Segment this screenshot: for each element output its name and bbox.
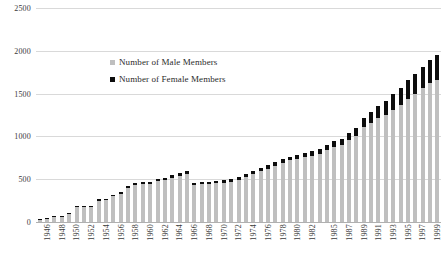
x-axis-tick-label: 1954 xyxy=(102,224,111,241)
y-axis-tick-label: 500 xyxy=(18,175,31,184)
x-axis-tick-label: 1958 xyxy=(131,224,140,241)
bar-segment-female xyxy=(325,145,329,150)
bar-segment-male xyxy=(89,207,93,222)
x-axis: 1946194819501952195419561958196019621964… xyxy=(36,224,441,256)
bar-segment-female xyxy=(237,177,241,180)
bar-segment-male xyxy=(259,171,263,222)
bar-segment-male xyxy=(369,123,373,222)
bar-segment-male xyxy=(318,154,322,222)
bar-segment-male xyxy=(332,147,336,222)
x-axis-tick-label: 1968 xyxy=(205,224,214,241)
bar-segment-female xyxy=(399,88,403,105)
bar-segment-male xyxy=(251,174,255,222)
bar-segment-female xyxy=(303,153,307,157)
bar-segment-male xyxy=(435,80,439,222)
bar-segment-female xyxy=(244,174,248,177)
bar-segment-male xyxy=(421,88,425,222)
bar-segment-female xyxy=(67,213,71,214)
bar-segment-female xyxy=(421,67,425,88)
bar-segment-female xyxy=(119,192,123,194)
bar-segment-female xyxy=(207,182,211,184)
bar-segment-male xyxy=(38,220,42,222)
x-axis-tick-label: 1964 xyxy=(175,224,184,241)
bar-segment-female xyxy=(391,94,395,110)
bar-segment-female xyxy=(38,219,42,220)
bar-segment-male xyxy=(163,180,167,222)
x-axis-tick-label: 1991 xyxy=(374,224,383,241)
bar-segment-female xyxy=(428,60,432,83)
bar-segment-male xyxy=(133,185,137,222)
y-axis: 05001000150020002500 xyxy=(0,0,34,256)
y-axis-tick-label: 1500 xyxy=(14,89,31,98)
x-axis-tick-label: 1999 xyxy=(433,224,442,241)
x-axis-tick-label: 1989 xyxy=(360,224,369,241)
y-axis-tick-label: 1000 xyxy=(14,132,31,141)
bar-segment-male xyxy=(214,183,218,222)
bar-segment-female xyxy=(347,133,351,140)
bar-segment-male xyxy=(170,178,174,223)
chart-legend: Number of Male MembersNumber of Female M… xyxy=(110,57,226,84)
bar-segment-male xyxy=(354,136,358,222)
legend-item: Number of Male Members xyxy=(110,57,226,67)
bar-segment-male xyxy=(97,201,101,222)
bar-segment-male xyxy=(185,174,189,222)
bar-segment-male xyxy=(303,157,307,222)
legend-label: Number of Male Members xyxy=(119,57,217,67)
bar-segment-male xyxy=(200,184,204,222)
x-axis-tick-label: 1972 xyxy=(234,224,243,241)
bar-segment-female xyxy=(229,179,233,181)
gridline xyxy=(36,51,441,52)
bar-segment-male xyxy=(347,140,351,222)
bar-segment-male xyxy=(310,156,314,222)
bar-segment-female xyxy=(281,159,285,163)
bar-segment-female xyxy=(259,168,263,171)
x-axis-tick-label: 1962 xyxy=(161,224,170,241)
bar-segment-male xyxy=(237,180,241,222)
bar-segment-female xyxy=(288,157,292,161)
bar-segment-female xyxy=(192,183,196,185)
x-axis-tick-label: 1948 xyxy=(58,224,67,241)
x-axis-tick-label: 1978 xyxy=(279,224,288,241)
bar-segment-male xyxy=(295,159,299,222)
bar-segment-female xyxy=(104,199,108,201)
bar-segment-male xyxy=(60,217,64,222)
axis-baseline xyxy=(36,222,441,223)
y-axis-tick-label: 0 xyxy=(27,218,31,227)
bar-segment-male xyxy=(391,110,395,222)
bar-segment-male xyxy=(428,83,432,222)
x-axis-tick-label: 1970 xyxy=(220,224,229,241)
x-axis-tick-label: 1952 xyxy=(87,224,96,241)
bar-segment-male xyxy=(266,169,270,223)
bar-segment-male xyxy=(104,200,108,222)
bar-segment-female xyxy=(406,80,410,98)
bar-segment-male xyxy=(178,176,182,222)
bar-segment-female xyxy=(376,106,380,118)
bar-segment-female xyxy=(362,118,366,127)
bar-segment-female xyxy=(126,186,130,188)
bar-segment-male xyxy=(406,99,410,222)
bar-segment-female xyxy=(354,128,358,136)
bar-segment-male xyxy=(362,127,366,222)
y-axis-tick-label: 2000 xyxy=(14,46,31,55)
bar-segment-female xyxy=(111,195,115,197)
bar-segment-female xyxy=(251,171,255,174)
bar-segment-female xyxy=(141,182,145,184)
bar-segment-male xyxy=(67,214,71,222)
x-axis-tick-label: 1980 xyxy=(293,224,302,241)
bar-segment-male xyxy=(156,181,160,222)
bar-segment-male xyxy=(325,150,329,222)
bar-segment-male xyxy=(222,183,226,222)
bar-segment-male xyxy=(207,184,211,222)
membership-stacked-bar-chart: 05001000150020002500 1946194819501952195… xyxy=(0,0,444,256)
bar-segment-male xyxy=(119,194,123,222)
bar-segment-female xyxy=(148,182,152,184)
x-axis-tick-label: 1966 xyxy=(190,224,199,241)
bar-segment-female xyxy=(89,206,93,207)
bar-segment-male xyxy=(273,166,277,222)
bar-segment-male xyxy=(376,118,380,222)
bar-segment-female xyxy=(200,182,204,184)
bar-segment-male xyxy=(52,217,56,222)
bar-segment-female xyxy=(82,206,86,207)
bar-segment-female xyxy=(340,139,344,145)
bar-segment-male xyxy=(82,207,86,222)
